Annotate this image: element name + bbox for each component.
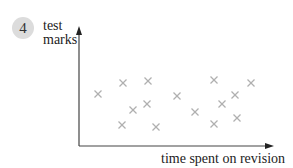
x-marker-icon: [120, 80, 127, 87]
x-marker-icon: [130, 107, 137, 114]
x-axis-arrow-icon: [265, 143, 274, 149]
x-marker-icon: [95, 91, 102, 98]
x-marker-icon: [153, 124, 160, 131]
x-marker-icon: [192, 109, 199, 116]
x-marker-icon: [211, 121, 218, 128]
x-marker-icon: [144, 101, 151, 108]
scatter-plot: [0, 0, 293, 168]
x-marker-icon: [145, 78, 152, 85]
x-marker-icon: [211, 77, 218, 84]
x-marker-icon: [248, 80, 255, 87]
x-marker-icon: [234, 115, 241, 122]
x-marker-icon: [119, 122, 126, 129]
x-axis-label: time spent on revision: [161, 151, 285, 167]
axes: [76, 26, 274, 149]
y-axis-arrow-icon: [76, 26, 82, 35]
x-marker-icon: [219, 101, 226, 108]
data-points: [95, 77, 255, 131]
x-marker-icon: [232, 92, 239, 99]
x-marker-icon: [174, 93, 181, 100]
